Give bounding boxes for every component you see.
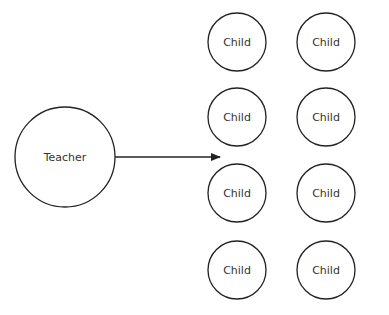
teacher-label: Teacher [43, 151, 87, 164]
child-node: Child [208, 88, 266, 146]
child-label: Child [223, 264, 251, 277]
child-label: Child [223, 187, 251, 200]
teacher-children-diagram: Teacher ChildChildChildChildChildChildCh… [0, 0, 389, 315]
child-label: Child [312, 111, 340, 124]
child-label: Child [223, 111, 251, 124]
teacher-node: Teacher [15, 107, 115, 207]
diagram-svg: Teacher ChildChildChildChildChildChildCh… [0, 0, 389, 315]
child-node: Child [297, 164, 355, 222]
child-node: Child [297, 241, 355, 299]
child-label: Child [312, 264, 340, 277]
child-label: Child [312, 36, 340, 49]
child-node: Child [208, 164, 266, 222]
child-node: Child [297, 13, 355, 71]
children-grid: ChildChildChildChildChildChildChildChild [208, 13, 355, 299]
child-node: Child [208, 13, 266, 71]
child-node: Child [208, 241, 266, 299]
child-node: Child [297, 88, 355, 146]
child-label: Child [312, 187, 340, 200]
child-label: Child [223, 36, 251, 49]
